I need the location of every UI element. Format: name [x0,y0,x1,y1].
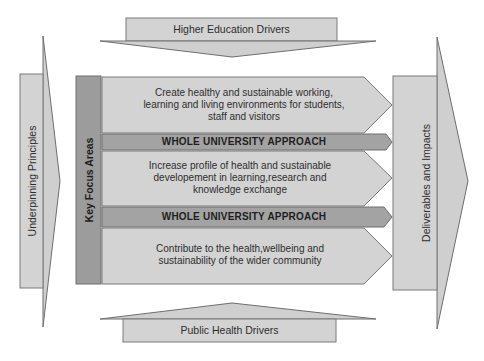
focus-area-2-text: Increase profile of health and sustainab… [110,160,370,196]
approach-band-2-label: WHOLE UNIVERSITY APPROACH [102,211,386,222]
left-principles-label: Underpinning Principles [26,126,38,237]
key-focus-label: Key Focus Areas [83,138,95,223]
focus-area-3-text: Contribute to the health,wellbeing and s… [110,243,370,267]
bottom-driver-label: Public Health Drivers [123,324,336,336]
top-arrow-head [100,41,376,57]
left-arrow-head [43,36,60,327]
right-arrow-head [437,37,468,329]
approach-band-1-label: WHOLE UNIVERSITY APPROACH [102,136,386,147]
right-outputs-label: Deliverables and Impacts [420,124,432,242]
focus-area-1-text: Create healthy and sustainable working, … [110,87,378,123]
bottom-arrow-head [100,303,376,319]
top-driver-label: Higher Education Drivers [126,23,337,35]
